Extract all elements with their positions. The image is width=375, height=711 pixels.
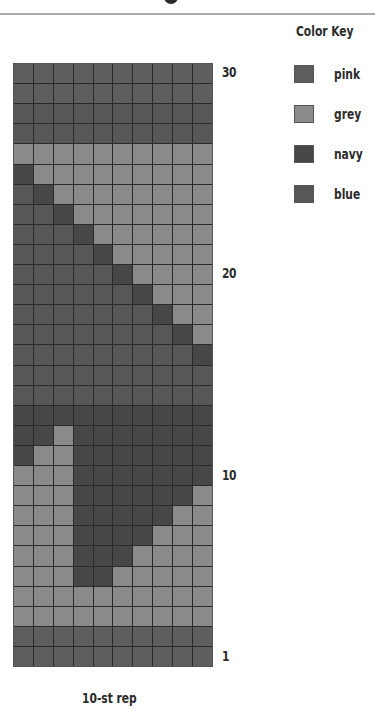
chart-cell-blue: [34, 245, 53, 264]
chart-cell-pink: [173, 84, 192, 103]
chart-cell-grey: [54, 567, 73, 586]
chart-cell-blue: [54, 386, 73, 405]
chart-cell-grey: [153, 607, 172, 626]
title-text-fragment: [164, 0, 178, 4]
chart-cell-navy: [153, 305, 172, 324]
chart-cell-pink: [94, 647, 113, 666]
chart-cell-navy: [34, 406, 53, 425]
chart-cell-navy: [113, 265, 132, 284]
chart-cell-blue: [193, 104, 212, 123]
chart-cell-grey: [34, 587, 53, 606]
chart-cell-grey: [54, 466, 73, 485]
chart-cell-grey: [94, 225, 113, 244]
chart-cell-pink: [113, 84, 132, 103]
chart-cell-grey: [193, 305, 212, 324]
chart-cell-grey: [193, 607, 212, 626]
chart-cell-navy: [153, 486, 172, 505]
chart-cell-grey: [54, 607, 73, 626]
chart-cell-navy: [113, 486, 132, 505]
chart-cell-blue: [14, 185, 33, 204]
chart-cell-grey: [113, 607, 132, 626]
chart-cell-grey: [153, 165, 172, 184]
chart-cell-grey: [54, 546, 73, 565]
chart-cell-blue: [133, 386, 152, 405]
chart-cell-blue: [54, 104, 73, 123]
chart-cell-blue: [133, 124, 152, 143]
chart-cell-grey: [113, 567, 132, 586]
chart-cell-pink: [94, 627, 113, 646]
chart-cell-grey: [34, 546, 53, 565]
chart-cell-navy: [74, 225, 93, 244]
chart-cell-navy: [94, 546, 113, 565]
chart-cell-grey: [193, 486, 212, 505]
chart-cell-grey: [54, 446, 73, 465]
chart-cell-blue: [113, 124, 132, 143]
chart-cell-pink: [133, 64, 152, 83]
chart-cell-grey: [133, 265, 152, 284]
chart-cell-grey: [54, 506, 73, 525]
chart-cell-blue: [14, 104, 33, 123]
row-label-20: 20: [222, 265, 236, 281]
repeat-label: 10-st rep: [82, 690, 137, 706]
chart-cell-grey: [14, 587, 33, 606]
chart-cell-blue: [113, 325, 132, 344]
chart-cell-navy: [113, 426, 132, 445]
chart-cell-navy: [193, 345, 212, 364]
chart-cell-grey: [153, 526, 172, 545]
chart-cell-navy: [193, 406, 212, 425]
chart-cell-blue: [94, 285, 113, 304]
chart-cell-grey: [94, 205, 113, 224]
chart-cell-blue: [133, 366, 152, 385]
chart-cell-pink: [153, 84, 172, 103]
chart-cell-blue: [34, 205, 53, 224]
chart-cell-blue: [74, 124, 93, 143]
chart-cell-blue: [14, 386, 33, 405]
chart-cell-navy: [94, 567, 113, 586]
chart-cell-pink: [54, 64, 73, 83]
chart-cell-pink: [173, 64, 192, 83]
chart-cell-grey: [94, 607, 113, 626]
chart-cell-blue: [193, 124, 212, 143]
chart-cell-navy: [193, 446, 212, 465]
chart-cell-blue: [173, 386, 192, 405]
blue-swatch-icon: [294, 185, 314, 203]
chart-cell-grey: [14, 567, 33, 586]
chart-cell-grey: [34, 446, 53, 465]
chart-cell-blue: [193, 386, 212, 405]
chart-cell-grey: [173, 587, 192, 606]
chart-cell-navy: [74, 546, 93, 565]
chart-cell-grey: [34, 607, 53, 626]
key-label-grey: grey: [334, 106, 361, 122]
chart-cell-blue: [34, 325, 53, 344]
key-item-pink: pink: [294, 64, 314, 84]
chart-cell-navy: [14, 446, 33, 465]
chart-cell-blue: [94, 305, 113, 324]
chart-cell-navy: [193, 466, 212, 485]
chart-cell-grey: [173, 506, 192, 525]
chart-cell-blue: [34, 104, 53, 123]
chart-cell-blue: [14, 345, 33, 364]
key-item-blue: blue: [294, 184, 314, 204]
chart-cell-grey: [153, 567, 172, 586]
navy-swatch-icon: [294, 145, 314, 163]
chart-cell-navy: [94, 426, 113, 445]
chart-cell-grey: [113, 185, 132, 204]
chart-cell-blue: [34, 345, 53, 364]
key-label-blue: blue: [334, 186, 360, 202]
chart-cell-blue: [173, 366, 192, 385]
chart-cell-pink: [153, 627, 172, 646]
chart-cell-grey: [34, 144, 53, 163]
chart-cell-blue: [74, 265, 93, 284]
chart-cell-blue: [74, 245, 93, 264]
key-label-pink: pink: [334, 66, 360, 82]
chart-cell-navy: [133, 466, 152, 485]
chart-cell-navy: [94, 245, 113, 264]
chart-cell-grey: [153, 546, 172, 565]
chart-cell-navy: [113, 466, 132, 485]
chart-cell-grey: [54, 486, 73, 505]
chart-cell-navy: [113, 506, 132, 525]
chart-cell-blue: [54, 265, 73, 284]
chart-cell-grey: [173, 265, 192, 284]
chart-cell-navy: [74, 426, 93, 445]
chart-cell-blue: [153, 325, 172, 344]
